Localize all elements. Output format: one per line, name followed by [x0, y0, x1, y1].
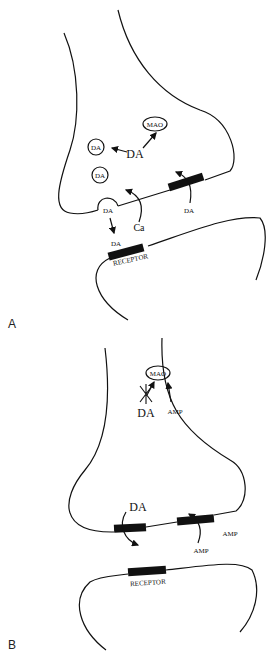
- panel-a: MAO DA DA DA DA DA Ca DA RECEPTOR A: [8, 10, 265, 331]
- presynaptic-terminal-b: [69, 338, 245, 532]
- presynaptic-terminal-a: [59, 10, 234, 214]
- vesicle-label-2: DA: [95, 172, 105, 180]
- da-blocked-label: DA: [137, 406, 155, 420]
- panel-label-b: B: [8, 638, 16, 652]
- amp-uptake-label: AMP: [193, 547, 208, 555]
- da-center-label: DA: [126, 147, 144, 161]
- vesicle-label-1: DA: [91, 144, 101, 152]
- amp-right-label: AMP: [222, 530, 237, 538]
- receptor-b: [128, 566, 166, 577]
- ca-label: Ca: [133, 222, 145, 233]
- amp-inside-label: AMP: [167, 408, 182, 416]
- receptor-label-b: RECEPTOR: [130, 578, 166, 588]
- mao-label-b: MAO: [150, 370, 166, 378]
- panel-label-a: A: [8, 317, 16, 331]
- released-da-label: DA: [111, 240, 121, 248]
- panel-b: MAO DA AMP DA AMP AMP RECEPTOR B: [8, 338, 257, 652]
- transporter-a: [168, 173, 205, 192]
- postsynaptic-membrane-b: [79, 564, 256, 650]
- mao-label-a: MAO: [147, 121, 163, 129]
- vesicle-release-label: DA: [103, 207, 113, 215]
- reuptake-da-label: DA: [184, 207, 194, 215]
- blocked-marker-icon: [140, 384, 152, 404]
- da-transporter-b: [114, 523, 146, 533]
- postsynaptic-membrane-a: [96, 218, 265, 320]
- da-membrane-label: DA: [129, 500, 147, 514]
- synapse-diagram: MAO DA DA DA DA DA Ca DA RECEPTOR A MAO …: [0, 0, 276, 662]
